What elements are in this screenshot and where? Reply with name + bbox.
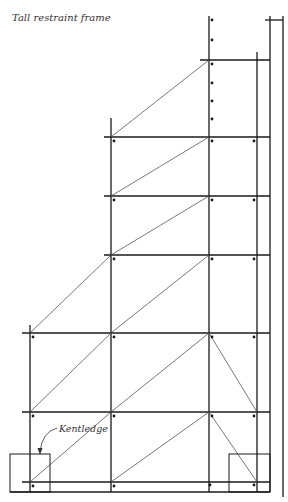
restraint-frame-diagram: Kentledge: [0, 0, 288, 502]
coupler-dot-icon: [211, 199, 214, 202]
coupler-dot-icon: [32, 415, 35, 418]
coupler-dot-icon: [209, 484, 212, 487]
brace-tube: [111, 196, 209, 255]
brace-tube: [111, 255, 209, 333]
coupler-dot-icon: [253, 140, 256, 143]
coupler-dot-icon: [113, 415, 116, 418]
coupler-dot-icon: [32, 336, 35, 339]
ledgers: [10, 20, 283, 492]
coupler-dot-icon: [211, 415, 214, 418]
coupler-dot-icon: [211, 258, 214, 261]
kentledge-block: [229, 454, 270, 492]
coupler-dot-icon: [113, 258, 116, 261]
coupler-dot-icon: [253, 258, 256, 261]
kentledge-label: Kentledge: [58, 423, 108, 434]
brace-tube: [111, 333, 209, 412]
brace-tube: [111, 412, 209, 482]
brace-tube: [30, 255, 111, 333]
coupler-dot-icon: [211, 100, 214, 103]
brace-tube: [30, 333, 111, 412]
coupler-dot-icon: [211, 82, 214, 85]
coupler-dot-icon: [113, 485, 116, 488]
coupler-dot-icon: [211, 118, 214, 121]
coupler-dot-icon: [113, 140, 116, 143]
kentledge-leader-arrow: [40, 428, 57, 452]
couplers: [32, 19, 256, 488]
kentledge-annotation: Kentledge: [38, 423, 109, 455]
coupler-dot-icon: [253, 415, 256, 418]
brace-tube: [111, 60, 209, 137]
coupler-dot-icon: [32, 485, 35, 488]
coupler-dot-icon: [211, 336, 214, 339]
brace-tube: [209, 412, 257, 482]
coupler-dot-icon: [253, 484, 256, 487]
coupler-dot-icon: [113, 199, 116, 202]
coupler-dot-icon: [253, 336, 256, 339]
coupler-dot-icon: [211, 140, 214, 143]
coupler-dot-icon: [113, 336, 116, 339]
coupler-dot-icon: [253, 199, 256, 202]
coupler-dot-icon: [211, 63, 214, 66]
coupler-dot-icon: [211, 19, 214, 22]
diagonal-braces: [30, 60, 257, 482]
brace-tube: [111, 137, 209, 196]
brace-tube: [209, 333, 257, 412]
kentledge-blocks: [10, 454, 270, 492]
coupler-dot-icon: [211, 39, 214, 42]
